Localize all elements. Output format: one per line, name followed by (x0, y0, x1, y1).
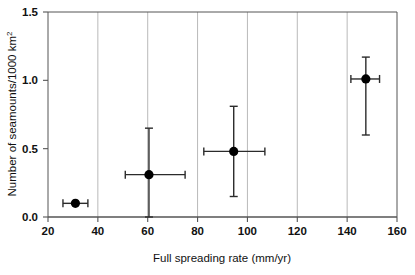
x-axis-tick-label: 120 (288, 225, 307, 237)
seamount-spreading-rate-figure: 20406080100120140160 0.00.51.01.5 Full s… (0, 0, 415, 275)
y-axis-tick-label: 1.5 (22, 6, 39, 18)
data-points-group (63, 57, 380, 217)
y-axis-title-superscript: 2 (5, 31, 14, 36)
y-axis-ticks-group (43, 12, 48, 217)
y-axis-tick-label: 0.5 (22, 143, 39, 155)
marker-filled-circle (144, 170, 153, 179)
x-axis-tick-label: 20 (42, 225, 55, 237)
marker-filled-circle (229, 147, 238, 156)
gridlines-group (98, 12, 347, 217)
data-point (125, 128, 185, 217)
y-axis-title: Number of seamounts/1000 km2 (5, 31, 18, 196)
x-axis-tick-label: 80 (191, 225, 204, 237)
marker-filled-circle (71, 199, 80, 208)
x-axis-tick-label: 140 (338, 225, 357, 237)
y-axis-title-text: Number of seamounts/1000 km (6, 36, 18, 196)
data-point (63, 199, 88, 208)
x-axis-title: Full spreading rate (mm/yr) (153, 252, 291, 264)
x-axis-tick-label: 40 (91, 225, 104, 237)
x-axis-tick-label: 100 (238, 225, 257, 237)
data-point (204, 106, 265, 196)
axes-group (48, 12, 397, 217)
x-axis-tick-label: 160 (387, 225, 406, 237)
x-axis-tick-labels-group: 20406080100120140160 (42, 225, 407, 237)
data-point (351, 57, 380, 135)
x-axis-tick-label: 60 (141, 225, 154, 237)
scatter-plot-canvas: 20406080100120140160 0.00.51.01.5 Full s… (0, 0, 415, 275)
y-axis-tick-label: 0.0 (22, 211, 38, 223)
x-axis-ticks-group (48, 217, 397, 222)
y-axis-tick-label: 1.0 (22, 74, 38, 86)
svg-text:Number of seamounts/1000 km2: Number of seamounts/1000 km2 (5, 31, 18, 196)
y-axis-tick-labels-group: 0.00.51.01.5 (22, 6, 39, 223)
marker-filled-circle (361, 74, 370, 83)
